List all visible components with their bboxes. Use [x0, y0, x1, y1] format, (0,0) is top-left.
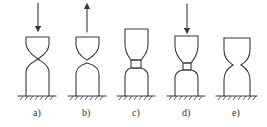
panel-e: e) — [216, 38, 257, 119]
contact-stages-diagram: a) b) c) — [0, 0, 267, 127]
lower-body — [26, 59, 49, 96]
panel-label: c) — [132, 107, 140, 119]
upper-body — [76, 37, 99, 60]
ground-hatch — [18, 96, 56, 100]
lower-right-edge — [241, 65, 250, 96]
upper-body — [175, 36, 198, 63]
bridge-neck — [183, 63, 191, 70]
panel-label: a) — [33, 107, 41, 119]
lower-body — [76, 63, 99, 96]
upper-left-edge — [224, 38, 233, 65]
panel-c: c) — [117, 29, 155, 119]
ground-hatch — [167, 96, 205, 100]
lower-left-edge — [224, 65, 233, 96]
panel-a: a) — [18, 3, 56, 119]
ground-hatch — [68, 96, 106, 100]
ground-hatch — [216, 96, 257, 100]
panel-label: e) — [232, 107, 240, 119]
ground-hatch — [117, 96, 155, 100]
panel-label: b) — [82, 107, 90, 119]
panel-d: d) — [167, 4, 205, 119]
bridge-neck — [131, 60, 141, 68]
lower-body — [125, 68, 148, 96]
upper-body — [26, 37, 49, 59]
upper-body — [125, 29, 148, 60]
lower-body — [175, 70, 198, 96]
panel-b: b) — [68, 6, 106, 119]
panel-label: d) — [182, 107, 190, 119]
